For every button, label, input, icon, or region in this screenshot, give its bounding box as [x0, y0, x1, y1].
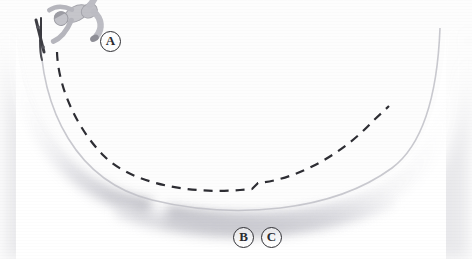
skateboard-wheel-1 [36, 25, 40, 29]
bowl-surface [6, 24, 466, 259]
label-marker-c: C [261, 227, 282, 248]
dashed-trajectory-path [57, 52, 389, 191]
label-marker-b: B [233, 227, 254, 248]
skateboard-wheel-2 [41, 45, 45, 49]
skate-bowl-figure: A B C [0, 0, 472, 259]
label-marker-a: A [100, 31, 121, 52]
skater-leg-back [82, 0, 102, 6]
scene-svg [0, 0, 472, 259]
